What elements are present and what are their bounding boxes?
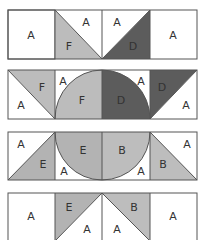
label: E [40,158,47,171]
quilt-block-diagram: A A F A D A F A A F D A D A [0,0,200,240]
label: A [27,210,35,223]
label: A [169,29,177,42]
row-3: A E E A B A A B [8,132,197,180]
label: A [60,165,68,178]
label: A [113,16,121,29]
label: E [66,201,73,214]
row-4: A E A A B A [8,193,197,240]
label: A [17,99,25,112]
label: D [129,40,137,53]
label: B [130,201,138,214]
row-2: F A A F D A D A [8,70,197,119]
label: A [183,138,191,151]
label: F [66,40,72,53]
label: A [182,99,190,112]
label: A [113,223,121,236]
label: D [117,94,125,107]
label: F [79,94,85,107]
label: A [59,75,67,88]
label: F [39,81,45,94]
label: B [159,158,167,171]
label: B [118,144,126,157]
label: A [137,75,145,88]
row-1: A A F A D A [8,10,197,59]
label: A [83,223,91,236]
label: A [169,210,177,223]
label: A [82,16,90,29]
label: A [27,29,35,42]
label: A [17,138,25,151]
label: A [137,165,145,178]
label: D [158,81,166,94]
label: E [80,144,87,157]
